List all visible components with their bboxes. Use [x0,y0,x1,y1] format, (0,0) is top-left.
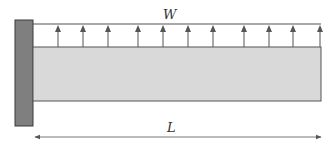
arrowhead-icon [55,25,61,32]
arrowhead-icon [105,25,111,32]
arrowhead-icon [241,25,247,32]
beam [33,47,321,101]
arrowhead-icon [317,25,323,32]
arrowhead-icon [185,25,191,32]
arrowhead-icon [80,25,86,32]
length-label: L [166,120,176,135]
arrowhead-icon [210,25,216,32]
arrowhead-icon [160,25,166,32]
arrowhead-icon [290,25,296,32]
load-label: W [163,7,178,22]
arrowhead-icon [266,25,272,32]
cantilever-diagram: W L [0,0,334,150]
fixed-wall-support [15,20,33,126]
arrowhead-icon [135,25,141,32]
load-arrows [55,25,323,47]
